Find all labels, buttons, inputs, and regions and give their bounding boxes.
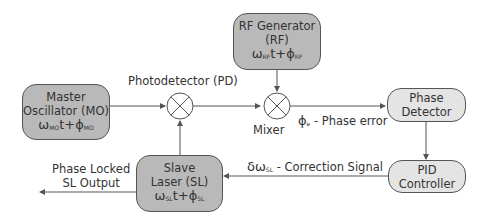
- sl-equation: ωSLt+ϕSL: [155, 189, 205, 206]
- mo-equation: ωMOt+ϕMO: [38, 118, 93, 135]
- pid-line2: Controller: [399, 177, 456, 191]
- mixer-label: Mixer: [253, 123, 284, 137]
- rf-label-line2: (RF): [265, 33, 289, 47]
- phase-detector-block: Phase Detector: [387, 88, 466, 122]
- photodetector-node: [167, 93, 193, 119]
- sl-label-line2: Laser (SL): [151, 175, 209, 189]
- master-oscillator-block: Master Oscillator (MO) ωMOt+ϕMO: [22, 84, 110, 140]
- correction-signal-label: δωSL - Correction Signal: [247, 160, 383, 177]
- rf-label-line1: RF Generator: [239, 19, 316, 33]
- phase-detector-line1: Phase: [409, 91, 443, 105]
- pid-line1: PID: [417, 163, 436, 177]
- phase-detector-line2: Detector: [401, 105, 451, 119]
- pid-controller-block: PID Controller: [388, 160, 466, 193]
- photodetector-label: Photodetector (PD): [128, 74, 238, 88]
- rf-equation: ωRFt+ϕRF: [252, 47, 303, 64]
- sl-output-label: Phase Locked SL Output: [52, 162, 130, 190]
- mixer-node: [264, 93, 290, 119]
- sl-label-line1: Slave: [164, 161, 195, 175]
- phase-error-label: ϕe - Phase error: [298, 114, 388, 131]
- mo-label-line1: Master: [46, 90, 85, 104]
- rf-generator-block: RF Generator (RF) ωRFt+ϕRF: [233, 13, 321, 70]
- mo-label-line2: Oscillator (MO): [23, 104, 109, 118]
- slave-laser-block: Slave Laser (SL) ωSLt+ϕSL: [136, 155, 223, 212]
